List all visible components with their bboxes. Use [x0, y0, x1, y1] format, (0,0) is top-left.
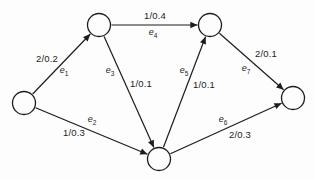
graph-edge-e3 [104, 36, 154, 147]
graph-node-bottom-middle [148, 148, 171, 171]
edge-e6-name-label: e6 [219, 114, 228, 126]
graph-node-top-right [199, 14, 222, 37]
graph-node-source [13, 92, 36, 115]
edge-e2-value-label: 1/0.3 [63, 127, 85, 138]
graph-edge-e1 [33, 34, 91, 94]
graph-edge-e7 [219, 33, 283, 89]
flow-network-svg: 2/0.2e11/0.3e21/0.1e31/0.4e41/0.1e52/0.3… [0, 0, 314, 180]
edge-e1-value-label: 2/0.2 [36, 53, 58, 64]
flow-network-diagram: 2/0.2e11/0.3e21/0.1e31/0.4e41/0.1e52/0.3… [0, 0, 314, 180]
edge-e4-value-label: 1/0.4 [144, 10, 166, 21]
edge-e3-value-label: 1/0.1 [130, 78, 152, 89]
graph-edge-e6 [170, 103, 281, 154]
edge-e7-value-label: 2/0.1 [255, 48, 277, 59]
edge-e6-value-label: 2/0.3 [229, 129, 251, 140]
edge-e4-name-label: e4 [149, 27, 158, 39]
edge-e3-name-label: e3 [106, 65, 115, 77]
edge-e1-name-label: e1 [60, 65, 69, 77]
edge-e5-value-label: 1/0.1 [193, 79, 215, 90]
graph-node-top-left [88, 14, 111, 37]
graph-node-sink [282, 87, 305, 110]
edge-e5-name-label: e5 [180, 65, 189, 77]
graph-edge-e5 [163, 37, 205, 148]
edge-e2-name-label: e2 [88, 114, 97, 126]
edge-e7-name-label: e7 [242, 63, 251, 75]
